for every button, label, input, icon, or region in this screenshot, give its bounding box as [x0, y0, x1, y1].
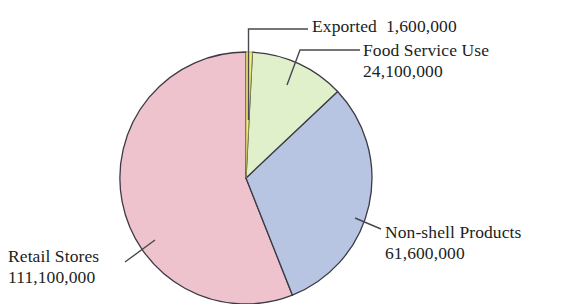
- slice-label-exported-text: Exported 1,600,000: [312, 16, 457, 37]
- slice-label-retail-stores: Retail Stores 111,100,000: [8, 246, 99, 288]
- pie-chart-figure: Exported 1,600,000 Food Service Use 24,1…: [0, 0, 565, 304]
- slice-label-non-shell-products-value: 61,600,000: [385, 243, 521, 264]
- slice-label-non-shell-products-name: Non-shell Products: [385, 222, 521, 243]
- slice-label-retail-stores-value: 111,100,000: [8, 267, 99, 288]
- slice-label-food-service-use-name: Food Service Use: [363, 40, 489, 61]
- slice-label-food-service-use-value: 24,100,000: [363, 61, 489, 82]
- slice-label-non-shell-products: Non-shell Products 61,600,000: [385, 222, 521, 264]
- slice-label-retail-stores-name: Retail Stores: [8, 246, 99, 267]
- slice-label-food-service-use: Food Service Use 24,100,000: [363, 40, 489, 82]
- slice-label-exported: Exported 1,600,000: [312, 16, 457, 37]
